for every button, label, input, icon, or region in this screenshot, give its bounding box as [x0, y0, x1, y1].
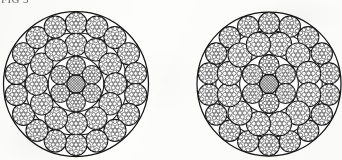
wire	[104, 129, 108, 133]
wire	[262, 14, 266, 18]
wire	[218, 59, 222, 63]
wire	[287, 92, 291, 96]
wire	[265, 105, 269, 109]
wire	[69, 114, 73, 118]
wire	[331, 85, 335, 89]
wire	[224, 67, 228, 71]
wire	[287, 80, 291, 84]
wire-center	[74, 122, 78, 126]
wire	[102, 143, 106, 147]
wire	[93, 107, 97, 111]
wire	[89, 108, 93, 112]
wire	[319, 121, 323, 125]
wire-center	[246, 139, 250, 143]
wire	[227, 27, 231, 31]
wire	[130, 105, 134, 109]
wire	[78, 129, 82, 133]
wire	[66, 26, 70, 30]
wire	[27, 31, 31, 35]
wire	[6, 67, 10, 71]
wire	[322, 55, 326, 59]
wire	[35, 70, 39, 74]
wire	[81, 147, 85, 151]
wire	[63, 48, 67, 52]
wire-center	[283, 92, 287, 96]
wire	[17, 44, 21, 48]
wire	[69, 129, 73, 133]
wire	[108, 36, 112, 40]
wire	[271, 151, 275, 155]
wire	[305, 111, 309, 115]
wire	[37, 125, 41, 129]
wire	[251, 51, 255, 55]
wire	[12, 112, 16, 116]
wire	[83, 69, 86, 72]
wire	[49, 40, 53, 44]
wire	[72, 97, 75, 100]
wire	[222, 101, 226, 105]
wire	[310, 28, 314, 32]
wire	[112, 94, 116, 98]
wire	[103, 25, 107, 29]
wire	[290, 136, 294, 140]
wire	[69, 35, 73, 39]
wire	[252, 69, 256, 73]
wire	[71, 146, 75, 150]
wire	[141, 67, 145, 71]
wire	[74, 108, 77, 111]
wire	[279, 25, 283, 29]
wire	[5, 93, 9, 97]
wire	[26, 120, 30, 124]
wire	[311, 101, 315, 105]
wire	[41, 98, 45, 102]
wire	[99, 147, 103, 151]
rope-cross-section-left	[0, 4, 156, 160]
wire	[71, 118, 75, 122]
wire	[264, 117, 268, 121]
wire	[235, 76, 239, 80]
wire	[21, 43, 25, 47]
wire	[199, 97, 203, 101]
wire	[291, 111, 295, 115]
wire	[32, 67, 36, 71]
wire	[134, 56, 138, 60]
wire-center	[113, 36, 117, 40]
wire	[265, 140, 269, 144]
wire	[66, 38, 70, 42]
wire	[203, 72, 207, 76]
wire	[329, 68, 333, 72]
wire	[261, 51, 265, 55]
wire	[65, 95, 68, 98]
wire	[292, 139, 296, 143]
wire	[210, 120, 214, 124]
wire	[78, 135, 82, 139]
wire	[263, 94, 267, 98]
wire	[26, 36, 30, 40]
wire	[96, 69, 99, 72]
wire	[78, 150, 82, 154]
wire	[5, 72, 9, 76]
wire	[304, 48, 308, 52]
wire	[317, 116, 321, 120]
wire	[138, 85, 142, 89]
wire	[228, 53, 232, 57]
wire	[254, 73, 258, 77]
wire	[93, 57, 97, 61]
wire	[90, 84, 93, 87]
wire	[76, 146, 80, 150]
wire	[248, 143, 252, 147]
wire	[94, 148, 98, 152]
wire	[280, 144, 284, 148]
wire	[74, 113, 78, 117]
wire	[12, 68, 16, 72]
wire	[22, 88, 26, 92]
wire	[54, 73, 57, 76]
wire	[99, 102, 103, 106]
wire	[54, 98, 57, 101]
wire	[267, 152, 271, 156]
wire	[235, 57, 239, 61]
wire	[113, 27, 117, 31]
wire	[271, 56, 275, 60]
wire	[58, 124, 62, 128]
wire	[39, 28, 43, 32]
